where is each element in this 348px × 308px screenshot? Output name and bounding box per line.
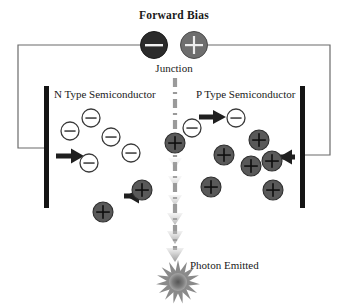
n-type-region-label: N Type Semiconductor — [54, 88, 156, 100]
photon-trail-chevron-3 — [168, 195, 182, 206]
junction-label: Junction — [0, 62, 348, 74]
plus-sign-icon-vertical — [258, 133, 260, 147]
electron-carrier — [82, 109, 100, 127]
page-title: Forward Bias — [0, 9, 348, 21]
hole-carrier — [214, 145, 234, 165]
electrode-right-label-marker — [300, 88, 304, 98]
arrow-electron-flow-junction — [199, 110, 226, 124]
plus-sign-icon-vertical — [174, 136, 176, 150]
hole-carrier — [93, 202, 113, 222]
electron-carrier — [61, 122, 79, 140]
minus-sign-icon — [83, 162, 94, 164]
electron-carrier — [227, 109, 245, 127]
hole-carrier — [165, 133, 185, 153]
diagram-canvas — [0, 0, 348, 308]
photon-trail-chevron-5 — [167, 231, 183, 244]
minus-sign-icon — [85, 117, 96, 119]
battery-symbol — [141, 32, 208, 59]
electron-carrier — [102, 128, 120, 146]
led-forward-bias-diagram: Forward Bias Junction N Type Semiconduct… — [0, 0, 348, 308]
photon-trail-chevron-1 — [168, 158, 182, 168]
photon-emitted-label: Photon Emitted — [190, 259, 259, 271]
plus-sign-icon-vertical — [210, 180, 212, 194]
minus-sign-icon — [64, 130, 75, 132]
photon-core — [169, 273, 187, 291]
hole-carrier — [262, 151, 282, 171]
minus-sign-icon — [230, 117, 241, 119]
minus-sign-icon — [105, 136, 116, 138]
plus-sign-icon-vertical — [250, 159, 252, 173]
minus-sign-icon — [186, 127, 197, 129]
plus-sign-icon-vertical — [271, 154, 273, 168]
hole-carrier — [201, 177, 221, 197]
electron-carrier — [183, 119, 201, 137]
electrode-right — [300, 86, 305, 208]
photon-trail-chevron-4 — [167, 213, 183, 225]
minus-icon — [145, 44, 163, 46]
p-type-region-label: P Type Semiconductor — [196, 88, 295, 100]
holes-layer — [93, 130, 283, 222]
plus-sign-icon-vertical — [272, 183, 274, 197]
plus-icon-vertical — [193, 36, 195, 54]
photon-trail-chevron-2 — [168, 176, 182, 187]
plus-sign-icon-vertical — [223, 148, 225, 162]
hole-carrier — [132, 180, 152, 200]
hole-carrier — [249, 130, 269, 150]
hole-carrier — [263, 180, 283, 200]
electron-carrier — [122, 144, 140, 162]
photon-trail-chevron-6 — [166, 248, 184, 262]
hole-carrier — [241, 156, 261, 176]
electrode-left — [44, 86, 49, 208]
electrode-left-label-marker — [45, 88, 49, 98]
plus-sign-icon-vertical — [141, 183, 143, 197]
electron-carrier — [80, 154, 98, 172]
minus-sign-icon — [125, 152, 136, 154]
plus-sign-icon-vertical — [102, 205, 104, 219]
